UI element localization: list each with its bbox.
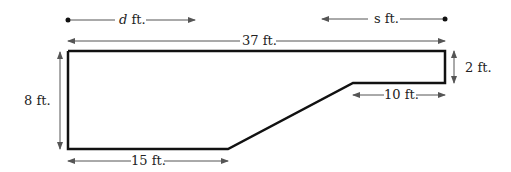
- left-height-label: 8 ft.: [24, 93, 51, 108]
- d-distance-arrow: d ft.: [66, 12, 196, 27]
- top-width-label: 37 ft.: [242, 33, 277, 48]
- d-start-dot: [66, 18, 71, 23]
- s-label: s ft.: [374, 11, 399, 26]
- right-height-dimension: 2 ft.: [454, 51, 492, 83]
- bottom-width-label: 15 ft.: [131, 153, 166, 168]
- s-end-dot: [443, 17, 448, 22]
- d-label: d ft.: [119, 12, 146, 27]
- pool-cross-section-diagram: d ft. s ft. 37 ft. 8 ft. 2 ft. 10 ft. 15…: [0, 0, 511, 172]
- top-width-dimension: 37 ft.: [68, 33, 445, 48]
- right-height-label: 2 ft.: [465, 60, 492, 75]
- s-distance-arrow: s ft.: [322, 11, 448, 26]
- left-height-dimension: 8 ft.: [24, 52, 60, 149]
- bottom-width-dimension: 15 ft.: [68, 153, 228, 168]
- step-width-label: 10 ft.: [384, 87, 419, 102]
- step-width-dimension: 10 ft.: [353, 87, 445, 102]
